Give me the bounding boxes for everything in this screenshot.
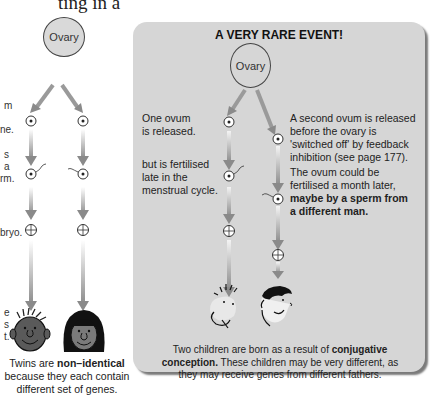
label-second-ovum-released: A second ovum is released before the ova… [290, 112, 416, 164]
left-ovum-icons [26, 116, 88, 126]
spiky-hair-child-face-icon [210, 284, 237, 328]
label-fertilised-month-later: The ovum could be fertilised a month lat… [290, 166, 408, 218]
dark-hair-child-face-icon [260, 286, 292, 326]
boy-face-icon [10, 308, 50, 351]
label-fertilised-late: but is fertilised late in the menstrual … [142, 158, 218, 197]
twins-non-identical-caption: Twins are non–identical because they eac… [0, 357, 146, 396]
conjugative-conception-caption: Two children are born as a result of con… [145, 344, 415, 382]
left-fertilised-ovum-icons [26, 164, 88, 179]
girl-face-icon [63, 310, 104, 352]
label-one-ovum-released: One ovum is released. [142, 112, 196, 138]
left-embryo-icons [26, 225, 89, 236]
